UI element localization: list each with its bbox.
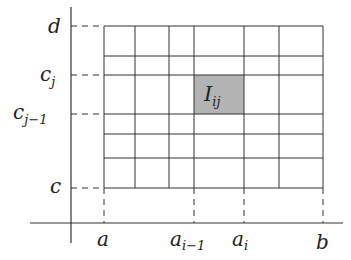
label-a-i-minus-1: ai−1 — [170, 227, 205, 253]
label-b: b — [316, 230, 329, 254]
label-d: d — [48, 14, 61, 38]
label-c-j-minus-1: cj−1 — [13, 100, 47, 127]
riemann-partition-diagram: d cj cj−1 c a ai−1 ai b Iij — [0, 0, 351, 260]
label-c-j: cj — [40, 62, 55, 89]
y-dashed-guides — [71, 26, 104, 188]
x-dashed-guides — [104, 188, 323, 223]
label-a-i: ai — [232, 227, 248, 253]
label-a: a — [97, 227, 109, 251]
label-c: c — [50, 174, 61, 198]
